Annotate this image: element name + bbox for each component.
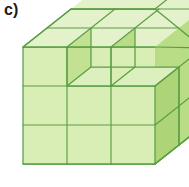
figure-container: c) Isometric drawing of a stack of unit … — [0, 0, 189, 187]
top-cube-left-front-face — [23, 47, 67, 86]
cube-stack-illustration: Isometric drawing of a stack of unit cub… — [0, 0, 189, 187]
cube-stack-geometry — [23, 0, 189, 164]
